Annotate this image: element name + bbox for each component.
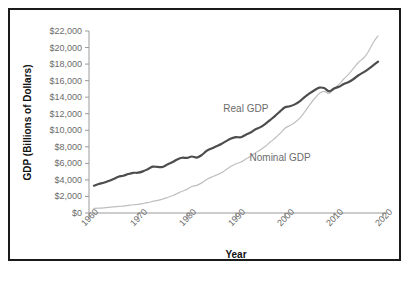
y-tick-label: $6,000 [54,158,82,168]
y-tick-label: $20,000 [49,43,82,53]
series-label-real-gdp: Real GDP [223,103,268,114]
y-tick-label: $4,000 [54,175,82,185]
y-tick-label: $16,000 [49,76,82,86]
x-axis-title: Year [89,249,383,260]
y-tick-label: $2,000 [54,191,82,201]
series-line-real-gdp [94,62,378,186]
y-tick-label: $18,000 [49,59,82,69]
y-tick-label: $14,000 [49,92,82,102]
chart-border-frame: GDP (Billions of Dollars) Year $0$2,000$… [8,8,401,261]
y-axis-title: GDP (Billions of Dollars) [22,64,33,180]
series-label-nominal-gdp: Nominal GDP [250,152,311,163]
y-tick-label: $0 [72,208,82,218]
y-tick-label: $22,000 [49,26,82,36]
series-line-nominal-gdp [94,36,378,209]
y-tick-label: $10,000 [49,125,82,135]
y-tick-label: $12,000 [49,109,82,119]
chart-figure: GDP (Billions of Dollars) Year $0$2,000$… [0,0,411,282]
y-tick-label: $8,000 [54,142,82,152]
